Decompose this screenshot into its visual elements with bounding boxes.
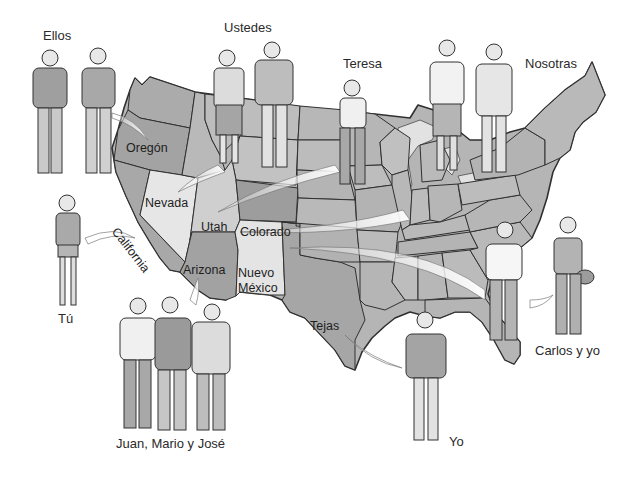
person-carlos-companion bbox=[554, 217, 594, 334]
person-mario bbox=[155, 297, 191, 430]
label-juan-mario-jose: Juan, Mario y José bbox=[116, 436, 225, 451]
label-teresa: Teresa bbox=[343, 56, 382, 71]
state-label-nevada: Nevada bbox=[145, 196, 188, 210]
label-carlos-y-yo: Carlos y yo bbox=[535, 343, 600, 358]
state-label-nuevo-mexico-2: México bbox=[238, 281, 278, 295]
state-north-dakota bbox=[298, 106, 345, 140]
person-ellos-1 bbox=[33, 50, 67, 173]
state-label-utah: Utah bbox=[201, 220, 227, 234]
state-label-oregon: Oregón bbox=[126, 141, 168, 155]
state-label-colorado: Colorado bbox=[240, 225, 291, 239]
person-tu bbox=[56, 195, 80, 305]
person-juan bbox=[120, 298, 156, 428]
person-yo bbox=[406, 312, 446, 440]
us-map bbox=[0, 0, 632, 477]
state-label-nuevo-mexico-1: Nuevo bbox=[238, 266, 274, 280]
label-ustedes: Ustedes bbox=[224, 20, 272, 35]
us-map-illustration: Ellos Ustedes Teresa Nosotras Tú Juan, M… bbox=[0, 0, 632, 477]
label-nosotras: Nosotras bbox=[525, 56, 577, 71]
label-ellos: Ellos bbox=[43, 28, 71, 43]
state-label-tejas: Tejas bbox=[310, 319, 339, 333]
person-jose bbox=[192, 304, 230, 430]
label-tu: Tú bbox=[58, 311, 73, 326]
state-indiana bbox=[410, 188, 430, 225]
person-ellos-2 bbox=[82, 48, 115, 173]
state-label-arizona: Arizona bbox=[183, 263, 225, 277]
label-yo: Yo bbox=[449, 434, 464, 449]
